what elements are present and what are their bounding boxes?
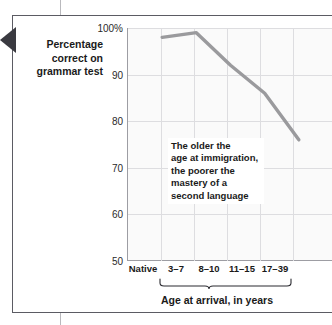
y-tick-label: 100% [87, 23, 123, 34]
left-triangle-marker-icon [0, 27, 16, 53]
y-tick-label: 80 [87, 116, 123, 127]
chart-figure: Percentage correct on grammar test 100% … [0, 0, 332, 325]
x-tick-label-3-7: 3–7 [168, 263, 184, 274]
x-axis-tick-labels: Native 3–7 8–10 11–15 17–39 [127, 263, 332, 279]
trend-annotation: The older the age at immigration, the po… [168, 138, 264, 204]
x-tick-label-native: Native [129, 263, 158, 274]
x-tick-label-17-39: 17–39 [262, 263, 288, 274]
y-tick-label: 60 [87, 209, 123, 220]
x-tick-label-11-15: 11–15 [229, 263, 255, 274]
annotation-line-4: mastery of a [171, 177, 261, 189]
y-tick-label: 50 [87, 256, 123, 267]
annotation-line-2: age at immigration, [171, 152, 261, 164]
x-axis-brace [127, 278, 332, 294]
x-tick-label-8-10: 8–10 [198, 263, 219, 274]
y-tick-label: 90 [87, 69, 123, 80]
annotation-line-5: second language [171, 190, 261, 202]
y-axis-tick-labels: 100% 90 80 70 60 50 [85, 28, 123, 261]
y-tick-label: 70 [87, 162, 123, 173]
x-axis-title: Age at arrival, in years [127, 294, 307, 306]
annotation-line-3: the poorer the [171, 165, 261, 177]
annotation-line-1: The older the [171, 140, 261, 152]
